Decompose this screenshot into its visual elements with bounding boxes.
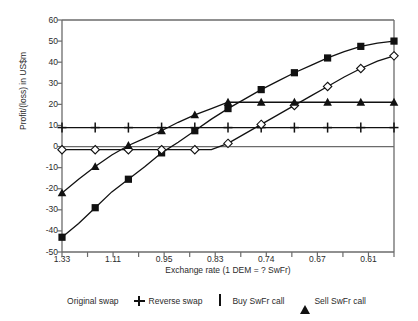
triangle-glyph	[300, 295, 310, 314]
data-point-diamond	[390, 52, 398, 60]
triangle-marker-icon	[299, 295, 310, 306]
data-point-triangle	[91, 162, 100, 170]
legend-item[interactable]: Reverse swap	[134, 295, 203, 306]
data-point-diamond	[357, 64, 365, 72]
diamond-glyph	[219, 294, 221, 306]
data-point-square	[224, 105, 231, 112]
legend-label: Sell SwFr call	[314, 296, 365, 306]
data-point-square	[324, 54, 331, 61]
legend-item[interactable]: Sell SwFr call	[299, 295, 365, 306]
legend-item[interactable]: Original swap	[52, 295, 119, 306]
legend-label: Reverse swap	[149, 296, 203, 306]
data-point-diamond	[323, 82, 331, 90]
legend-label: Buy SwFr call	[232, 296, 284, 306]
plus-marker-icon	[134, 295, 145, 306]
data-point-square	[291, 69, 298, 76]
data-point-triangle	[124, 141, 133, 149]
diamond-marker-icon	[217, 295, 228, 306]
chart-figure: Profit/(loss) in US$m Exchange rate (1 D…	[0, 0, 418, 321]
legend-label: Original swap	[67, 296, 119, 306]
data-point-square	[258, 86, 265, 93]
plot-canvas	[0, 0, 418, 321]
data-point-square	[58, 234, 65, 241]
square-marker-icon	[52, 295, 63, 306]
data-point-square	[125, 176, 132, 183]
legend-item[interactable]: Buy SwFr call	[217, 295, 284, 306]
data-point-square	[92, 204, 99, 211]
data-point-square	[390, 37, 397, 44]
chart-legend: Original swapReverse swapBuy SwFr callSe…	[0, 295, 418, 306]
data-point-square	[357, 43, 364, 50]
